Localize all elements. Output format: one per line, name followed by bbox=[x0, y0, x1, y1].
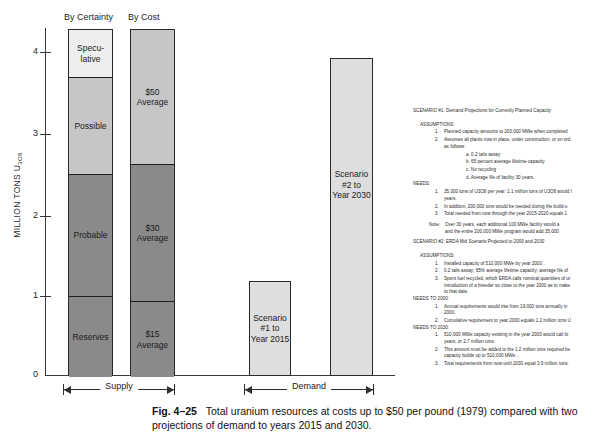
segment-50-label-2: Average bbox=[137, 97, 169, 108]
list-item: 1. Installed capacity of 510,000 MWe by … bbox=[435, 261, 613, 268]
range-demand-label: Demand bbox=[287, 381, 331, 391]
scenario-1-label-3: Year 2015 bbox=[251, 334, 289, 345]
segment-possible: Possible bbox=[69, 77, 112, 174]
list-number: 1. bbox=[435, 332, 439, 339]
list-text: c. No recycling bbox=[466, 167, 496, 172]
list-number: 2. bbox=[435, 268, 439, 275]
list-item: b. 65 percent average lifetime capacity bbox=[457, 159, 613, 166]
note-text-2: and the entire 200,000 MWe program would… bbox=[445, 229, 613, 236]
scenario-1-heading: SCENARIO #1: Demand Projections for Curr… bbox=[413, 108, 613, 115]
list-text: Cumulative requirement to year 2000 equa… bbox=[444, 318, 571, 323]
list-text: In addition, 200,000 tons would be neede… bbox=[444, 204, 567, 209]
column-header-by-certainty: By Certainty bbox=[64, 12, 113, 22]
scenario-1-note: Note: Over 30 years, each additional 100… bbox=[429, 222, 613, 235]
scenario-notes-panel: SCENARIO #1: Demand Projections for Curr… bbox=[413, 108, 613, 393]
note-text-1: Over 30 years, each additional 100 MWe f… bbox=[445, 222, 559, 227]
list-item: 2. 0.2 tails assay; 65% average lifetime… bbox=[435, 268, 613, 275]
list-number: 3. bbox=[435, 361, 439, 368]
note-word: Note: bbox=[429, 222, 440, 229]
segment-probable-label: Probable bbox=[73, 230, 107, 241]
list-text-continued: introduction of a breeder so close to th… bbox=[444, 283, 613, 290]
scenario-2-label-3: Year 2030 bbox=[332, 190, 370, 201]
bar-scenario-2: Scenario #2 to Year 2030 bbox=[330, 58, 373, 376]
list-text: Assumes all plants now in place, under c… bbox=[444, 137, 570, 142]
y-tick-4 bbox=[40, 52, 51, 53]
list-item: 2. In addition, 200,000 tons would be ne… bbox=[435, 204, 613, 211]
list-item: c. No recycling bbox=[457, 167, 613, 174]
segment-50-average: $50 Average bbox=[131, 30, 174, 164]
list-number: 1. bbox=[435, 304, 439, 311]
y-tick-2 bbox=[40, 216, 51, 217]
scenario-1-label-2: #1 to bbox=[251, 323, 289, 334]
y-tick-label-2: 2 bbox=[16, 210, 38, 220]
list-text: Annual requirements would rise from 19,0… bbox=[444, 304, 567, 309]
list-text-continued: capacity builds up to 510,000 MWe . bbox=[444, 353, 613, 360]
segment-reserves-label: Reserves bbox=[73, 332, 109, 343]
list-text: This amount must be added to the 1.2 mil… bbox=[444, 347, 570, 352]
segment-15-label-1: $15 bbox=[137, 329, 169, 340]
bar-by-cost: $50 Average $30 Average $15 Average bbox=[130, 29, 175, 376]
list-number: 2. bbox=[435, 137, 439, 144]
scenario-2-needs-2000-heading: NEEDS TO 2000: bbox=[413, 296, 613, 303]
y-tick-label-4: 4 bbox=[16, 46, 38, 56]
list-text: b. 65 percent average lifetime capacity bbox=[466, 159, 545, 164]
scenario-1-label-1: Scenario bbox=[251, 313, 289, 324]
figure-caption-line-2: projections of demand to years 2015 and … bbox=[152, 419, 372, 431]
range-supply-label: Supply bbox=[100, 381, 138, 391]
bar-by-certainty: Specu- lative Possible Probable Reserves bbox=[68, 29, 113, 376]
y-axis-label-sub: 3O8 bbox=[17, 152, 23, 164]
list-number: 3. bbox=[435, 276, 439, 283]
scenario-1-needs-heading: NEEDS: bbox=[413, 181, 613, 188]
y-axis-label-text: MILLION TONS U bbox=[12, 165, 22, 238]
segment-probable: Probable bbox=[69, 174, 112, 296]
list-text: Installed capacity of 510,000 MWe by yea… bbox=[444, 261, 545, 266]
list-item: 3. Spent fuel recycled, which ERDA calls… bbox=[435, 276, 613, 296]
list-number: 2. bbox=[435, 204, 439, 211]
range-demand: Demand bbox=[244, 384, 374, 395]
list-text-continued: as follows: bbox=[444, 144, 613, 151]
list-number: 1. bbox=[435, 261, 439, 268]
segment-15-average: $15 Average bbox=[131, 301, 174, 377]
list-text: a. 0.2 tails assay bbox=[466, 152, 500, 157]
segment-30-label-1: $30 bbox=[137, 223, 169, 234]
list-text-continued: years, or 2.7 million tons. bbox=[444, 339, 613, 346]
figure-caption-line-1: Total uranium resources at costs up to $… bbox=[206, 405, 578, 417]
list-number: 3. bbox=[435, 211, 439, 218]
y-tick-1 bbox=[40, 296, 51, 297]
list-item: 2. Cumulative requirement to year 2000 e… bbox=[435, 318, 613, 325]
scenario-2-label-1: Scenario bbox=[332, 169, 370, 180]
column-header-by-cost: By Cost bbox=[128, 12, 160, 22]
y-tick-label-1: 1 bbox=[16, 290, 38, 300]
list-item: 1. 510,000 MWe capacity existing in the … bbox=[435, 332, 613, 345]
segment-30-label-2: Average bbox=[137, 233, 169, 244]
list-item: 1. Planned capacity amounts to 200,000 M… bbox=[435, 129, 613, 136]
segment-speculative-label-2: lative bbox=[77, 54, 104, 65]
list-number: 2. bbox=[435, 318, 439, 325]
list-text: Spent fuel recycled, which ERDA calls no… bbox=[444, 276, 570, 281]
segment-possible-label: Possible bbox=[74, 121, 106, 132]
y-axis-label: MILLION TONS U3O8 bbox=[12, 115, 22, 275]
list-item: 3. Total requirements from now until 203… bbox=[435, 361, 613, 368]
list-text-continued-2: to that date. bbox=[444, 289, 613, 296]
figure-caption: Fig. 4–25 Total uranium resources at cos… bbox=[152, 404, 607, 432]
list-text: 510,000 MWe capacity existing in the yea… bbox=[444, 332, 568, 337]
segment-scenario-2: Scenario #2 to Year 2030 bbox=[331, 155, 372, 215]
list-number: 1. bbox=[435, 189, 439, 196]
segment-speculative: Specu- lative bbox=[69, 30, 112, 77]
list-text-continued: 2000. bbox=[444, 310, 613, 317]
list-item: 2. This amount must be added to the 1.2 … bbox=[435, 347, 613, 360]
segment-scenario-1: Scenario #1 to Year 2015 bbox=[250, 282, 290, 375]
list-text: Total requirements from now until 2030 e… bbox=[444, 361, 569, 366]
bar-chart: By Certainty By Cost MILLION TONS U3O8 4… bbox=[0, 0, 400, 400]
y-axis-line bbox=[45, 28, 46, 376]
segment-50-label-1: $50 bbox=[137, 87, 169, 98]
list-item: d. Average life of facility 30 years. bbox=[457, 175, 613, 182]
list-item: 1. Annual requirements would rise from 1… bbox=[435, 304, 613, 317]
scenario-2-heading: SCENARIO #2: ERDA Mid Scenario Projected… bbox=[413, 239, 613, 246]
list-item: a. 0.2 tails assay bbox=[457, 152, 613, 159]
list-text: Total needed from now through the year 2… bbox=[444, 211, 567, 216]
bar-scenario-1: Scenario #1 to Year 2015 bbox=[249, 281, 291, 376]
range-supply: Supply bbox=[63, 384, 175, 395]
segment-15-label-2: Average bbox=[137, 340, 169, 351]
y-tick-label-3: 3 bbox=[16, 128, 38, 138]
